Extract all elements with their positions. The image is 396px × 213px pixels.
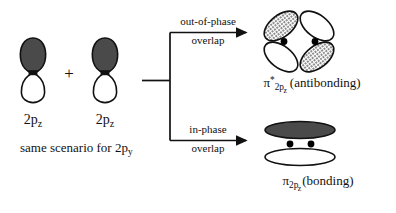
- orbital-right-label-text: 2p: [96, 112, 110, 127]
- arrow-label-in-phase-line1: in-phase: [189, 124, 226, 135]
- footnote-text: same scenario for 2p: [20, 140, 128, 155]
- orbital-right-label: 2pz: [96, 113, 114, 129]
- molecular-orbital-diagram: + 2pz 2pz same scenario for 2py out-of-p…: [0, 0, 396, 213]
- antibonding-electron-dot-left: [281, 38, 288, 45]
- bonding-symbol: π: [282, 173, 289, 188]
- antibonding-orbital-label: π*2pz(antibonding): [263, 76, 360, 94]
- orbital-right-nucleus: [101, 70, 110, 75]
- orbital-left-bottom-lobe: [21, 73, 44, 102]
- reactant-orbital-right: [92, 38, 117, 103]
- arrow-label-in-phase-line2: overlap: [192, 143, 225, 154]
- plus-sign: +: [64, 65, 74, 82]
- bonding-electron-dot-right: [308, 141, 315, 148]
- branch-bracket: [142, 33, 170, 141]
- footnote-same-scenario: same scenario for 2py: [20, 141, 133, 157]
- orbital-right-label-sub: z: [110, 118, 114, 129]
- bonding-orbital-group: [265, 122, 335, 166]
- orbital-left-label-sub: z: [38, 118, 42, 129]
- antibonding-orbital-group: [259, 5, 339, 77]
- orbital-right-bottom-lobe: [93, 73, 116, 102]
- antibonding-electron-dot-right: [312, 38, 319, 45]
- bonding-subsub: z: [298, 184, 301, 193]
- footnote-sub: y: [128, 147, 133, 157]
- antibonding-suffix: (antibonding): [290, 75, 361, 90]
- reactant-orbital-left: [20, 38, 45, 103]
- arrow-label-out-of-phase-line2: overlap: [192, 35, 225, 46]
- bonding-orbital-label: π2pz(bonding): [282, 174, 353, 192]
- antibonding-symbol: π: [263, 75, 270, 90]
- orbital-left-label-text: 2p: [24, 112, 38, 127]
- arrow-label-out-of-phase-line1: out-of-phase: [180, 16, 236, 27]
- orbital-left-nucleus: [29, 70, 38, 75]
- orbital-left-top-lobe: [20, 38, 45, 73]
- orbital-right-top-lobe: [92, 38, 117, 73]
- orbital-left-label: 2pz: [24, 113, 42, 129]
- bonding-electron-dot-left: [287, 141, 294, 148]
- antibonding-subsub: z: [283, 86, 286, 95]
- bonding-lobe-top: [265, 122, 335, 139]
- bonding-lobe-bottom: [265, 149, 335, 166]
- bonding-suffix: (bonding): [302, 173, 353, 188]
